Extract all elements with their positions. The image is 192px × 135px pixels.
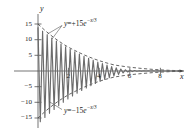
y-tick-label-15: 15: [18, 21, 32, 28]
upper-envelope-curve: [38, 24, 180, 71]
y-axis-label: y: [40, 5, 44, 13]
upper-label-leader: [48, 26, 63, 40]
y-tick-label-5: 5: [18, 52, 32, 59]
figure-container: y x 15 10 5 −5 −10 −15 2 4 6 8 y=+15e−x/…: [0, 0, 192, 135]
lower-label-leader: [49, 102, 62, 110]
y-tick-label-neg15: −15: [14, 114, 32, 121]
x-axis-label: x: [180, 73, 184, 81]
y-tick-label-neg10: −10: [14, 99, 32, 106]
y-tick-label-neg5: −5: [14, 83, 32, 90]
lower-envelope-equation: y=−15e−x/3: [64, 105, 97, 114]
x-tick-label-2: 2: [67, 73, 71, 80]
x-tick-label-4: 4: [97, 73, 101, 80]
upper-eq-coefficient: +15: [72, 19, 84, 28]
x-tick-label-8: 8: [158, 73, 162, 80]
y-tick-label-10: 10: [18, 36, 32, 43]
upper-envelope-equation: y=+15e−x/3: [64, 18, 97, 27]
lower-eq-coefficient: −15: [72, 106, 84, 115]
upper-eq-exponent: −x/3: [87, 17, 97, 23]
lower-eq-exponent: −x/3: [87, 104, 97, 110]
x-tick-label-6: 6: [128, 73, 132, 80]
